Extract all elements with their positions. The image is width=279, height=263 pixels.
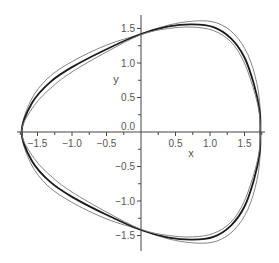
phase-portrait-chart: −1.5−1.0−0.50.51.01.5 1.51.00.50.0−0.5−1…: [0, 0, 279, 263]
y-axis-label: y: [113, 73, 119, 85]
y-tick-label: −1.0: [115, 196, 135, 207]
x-tick-label: 1.0: [203, 138, 217, 149]
x-tick-label: 0.5: [169, 138, 183, 149]
x-tick-label: −1.5: [28, 138, 48, 149]
y-tick-label: 0.0: [121, 121, 135, 132]
y-tick-label: 1.0: [121, 58, 135, 69]
y-tick-label: 1.5: [121, 23, 135, 34]
x-tick-label: 1.5: [238, 138, 252, 149]
x-axis-label: x: [188, 147, 194, 159]
x-tick-label: −0.5: [97, 138, 117, 149]
x-tick-label: −1.0: [62, 138, 82, 149]
y-tick-label: −0.5: [115, 161, 135, 172]
y-tick-label: −1.5: [115, 230, 135, 241]
y-tick-label: 0.5: [121, 92, 135, 103]
